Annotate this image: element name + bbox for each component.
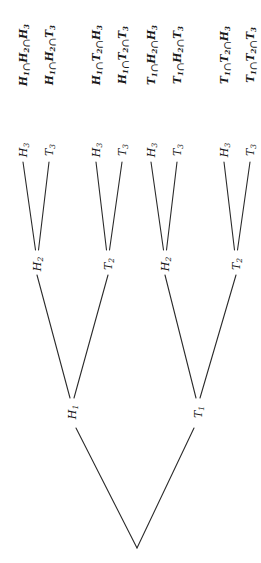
- edge-T1-T1T2: [200, 275, 236, 398]
- outcome-label-2: H1∩T2∩H3: [90, 25, 105, 86]
- outcome-label-6: T1∩T2∩H3: [218, 26, 233, 84]
- outcome-labels: H1∩H2∩H3H1∩H2∩T3H1∩T2∩H3H1∩T2∩T3T1∩H2∩H3…: [17, 24, 259, 87]
- node-label-T1H2-T3: T3: [171, 144, 185, 156]
- node-label-H1H2-H3: H3: [17, 143, 31, 159]
- node-label-T1T2-H3: H3: [218, 143, 232, 159]
- node-label-T1T2: T2: [230, 258, 244, 270]
- probability-tree-diagram: H1T1H2T2H2T2H3T3H3T3H3T3H3T3 H1∩H2∩H3H1∩…: [0, 0, 261, 563]
- edge-H1-H1H2: [37, 275, 70, 398]
- outcome-label-7: T1∩T2∩T3: [244, 27, 259, 83]
- edge-T1T2-T3-7: [238, 162, 251, 250]
- tree-edges: [23, 162, 250, 548]
- edge-T1T2-H3-6: [224, 162, 235, 250]
- outcome-label-4: T1∩H2∩H3: [145, 25, 160, 85]
- edge-H1H2-H3-0: [23, 162, 36, 250]
- edge-H1T2-H3-2: [96, 162, 107, 250]
- node-label-T1H2-H3: H3: [145, 143, 159, 159]
- node-label-T1H2: H2: [159, 257, 173, 273]
- edge-T1-T1H2: [165, 275, 196, 398]
- tree-nodes: H1T1H2T2H2T2H3T3H3T3H3T3H3T3: [17, 143, 258, 421]
- outcome-label-3: H1∩T2∩T3: [116, 26, 131, 85]
- edge-H1H2-T3-1: [39, 162, 50, 250]
- node-label-H1H2: H2: [31, 257, 45, 273]
- node-label-H1: H1: [66, 405, 80, 420]
- node-label-H1T2-H3: H3: [90, 143, 104, 159]
- node-label-H1T2-T3: T3: [116, 144, 130, 156]
- edge-root-T1: [137, 428, 194, 548]
- edge-root-H1: [76, 428, 137, 548]
- node-label-H1H2-T3: T3: [43, 144, 57, 156]
- edge-H1T2-T3-3: [110, 162, 123, 250]
- edge-T1H2-T3-5: [167, 162, 178, 250]
- outcome-label-0: H1∩H2∩H3: [17, 24, 32, 87]
- node-label-T1: T1: [192, 406, 206, 418]
- edge-T1H2-H3-4: [151, 162, 164, 250]
- node-label-T1T2-T3: T3: [244, 144, 258, 156]
- outcome-label-5: T1∩H2∩T3: [171, 26, 186, 84]
- outcome-label-1: H1∩H2∩T3: [43, 25, 58, 86]
- node-label-H1T2: T2: [102, 258, 116, 270]
- edge-H1-H1T2: [74, 275, 108, 398]
